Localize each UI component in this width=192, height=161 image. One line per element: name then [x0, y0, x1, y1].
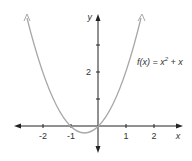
y-axis: [96, 14, 101, 153]
function-label: f(x) = x2 + x: [137, 56, 183, 67]
y-axis-up-arrow-icon: [96, 14, 101, 21]
x-axis-right-arrow-icon: [176, 124, 183, 129]
x-tick-label: 1: [123, 131, 128, 141]
x-tick-label: -1: [67, 131, 75, 141]
curve-right-arrow-icon: [138, 14, 145, 21]
y-axis-label: y: [87, 12, 93, 22]
graph: -2 -1 1 2 2 x y f(x) = x2 + x: [0, 0, 192, 161]
parabola-curve: [27, 18, 141, 133]
x-tick-label: 2: [151, 131, 156, 141]
y-tick-label: 2: [86, 67, 91, 77]
x-tick-label: -2: [39, 131, 47, 141]
x-axis-left-arrow-icon: [14, 124, 21, 129]
x-axis-label: x: [175, 131, 181, 141]
y-axis-down-arrow-icon: [96, 146, 101, 153]
